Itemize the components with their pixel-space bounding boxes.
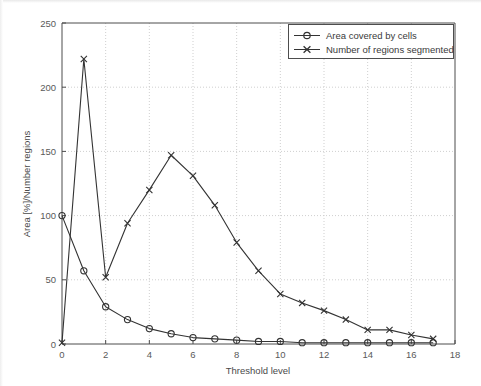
x-tick-label: 8 bbox=[234, 349, 239, 360]
x-axis-label: Threshold level bbox=[226, 365, 290, 376]
x-marker bbox=[212, 202, 218, 208]
x-tick-label: 0 bbox=[59, 349, 64, 360]
y-tick-label: 150 bbox=[40, 146, 56, 157]
y-tick-label: 250 bbox=[40, 18, 56, 29]
chart-figure: 024681012141618050100150200250 Threshold… bbox=[0, 0, 481, 386]
x-tick-label: 10 bbox=[275, 349, 286, 360]
y-tick-label: 100 bbox=[40, 210, 56, 221]
series-line bbox=[62, 216, 433, 343]
x-tick-label: 14 bbox=[362, 349, 373, 360]
x-tick-label: 18 bbox=[450, 349, 461, 360]
axes-frame bbox=[62, 23, 455, 344]
x-marker bbox=[146, 187, 152, 193]
y-tick-label: 200 bbox=[40, 82, 56, 93]
data-series bbox=[59, 56, 436, 346]
x-marker bbox=[168, 152, 174, 158]
legend-label-2: Number of regions segmented bbox=[326, 44, 454, 55]
series-number-of-regions-segmented bbox=[59, 56, 436, 346]
x-marker bbox=[124, 220, 130, 226]
line-chart: 024681012141618050100150200250 Threshold… bbox=[0, 0, 481, 386]
axis-ticks bbox=[62, 23, 455, 344]
x-tick-label: 4 bbox=[147, 349, 152, 360]
y-tick-label: 0 bbox=[51, 339, 56, 350]
x-marker bbox=[299, 300, 305, 306]
x-marker bbox=[255, 268, 261, 274]
x-tick-label: 16 bbox=[406, 349, 417, 360]
legend-label-1: Area covered by cells bbox=[326, 30, 417, 41]
series-line bbox=[62, 59, 433, 343]
y-tick-label: 50 bbox=[45, 274, 56, 285]
x-marker bbox=[234, 239, 240, 245]
y-axis-label: Area [%]/Number regions bbox=[21, 130, 32, 237]
x-tick-label: 6 bbox=[190, 349, 195, 360]
x-tick-label: 2 bbox=[103, 349, 108, 360]
x-marker bbox=[343, 317, 349, 323]
grid-lines bbox=[62, 23, 455, 344]
series-area-covered-by-cells bbox=[59, 213, 436, 346]
x-tick-label: 12 bbox=[319, 349, 330, 360]
chart-legend[interactable]: Area covered by cells Number of regions … bbox=[289, 25, 454, 59]
